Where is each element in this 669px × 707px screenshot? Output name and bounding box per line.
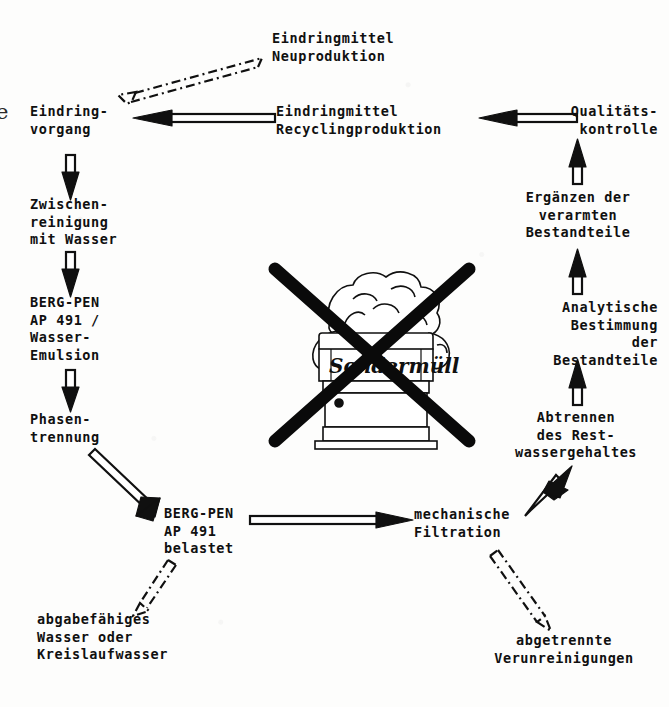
node-eindringmittel-neuproduktion: Eindringmittel Neuproduktion	[272, 30, 472, 65]
edge-eindringvorgang-to-neuproduktion	[118, 58, 262, 104]
node-ergaenzen-bestandteile: Ergänzen der verarmten Bestandteile	[493, 189, 663, 242]
node-qualitaetskontrolle: Qualitäts- kontrolle	[468, 103, 658, 138]
edge-ergaenzen-to-qualitaet	[569, 139, 586, 184]
sondermuell-barrel-illustration: Sondermüll	[253, 243, 500, 459]
edge-belastet-to-abgabefaehiges	[133, 560, 176, 616]
node-abgabefaehiges-wasser: abgabefähiges Wasser oder Kreislaufwasse…	[37, 611, 237, 664]
node-phasentrennung: Phasen- trennung	[30, 411, 160, 446]
edge-analytische-to-ergaenzen	[569, 249, 586, 294]
edge-eindringvorgang-to-zwischenreinigung	[62, 155, 79, 200]
node-zwischenreinigung: Zwischen- reinigung mit Wasser	[30, 196, 170, 249]
node-berg-pen-emulsion: BERG-PEN AP 491 / Wasser- Emulsion	[30, 294, 160, 364]
diagram-canvas: e .shaft-out{fill:#ffffff;stroke:#101010…	[0, 0, 669, 707]
edge-zwischenreinigung-to-bergpen	[62, 252, 79, 297]
node-abtrennen-restwasser: Abtrennen des Rest- wassergehaltes	[488, 409, 664, 462]
node-analytische-bestimmung: Analytische Bestimmung der Bestandteile	[488, 299, 658, 369]
edge-recycling-to-eindringvorgang	[133, 110, 275, 126]
edge-filtration-to-verunreinigungen	[490, 550, 551, 631]
edge-bergpen-to-phasentrennung	[62, 370, 79, 412]
edge-phasentrennung-to-belastet	[89, 449, 160, 521]
node-eindringvorgang: Eindring- vorgang	[30, 103, 140, 138]
node-berg-pen-belastet: BERG-PEN AP 491 belastet	[164, 505, 284, 558]
node-abgetrennte-verunreinigungen: abgetrennte Verunreinigungen	[466, 632, 662, 667]
node-mechanische-filtration: mechanische Filtration	[414, 506, 564, 541]
node-eindringmittel-recycling: Eindringmittel Recyclingproduktion	[276, 103, 496, 138]
